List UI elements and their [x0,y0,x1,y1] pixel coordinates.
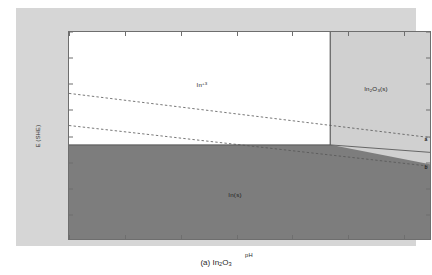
figure-caption: (a) In2O3 [200,258,231,267]
water-line-a [69,93,431,137]
region-label-in2o3: In2O3(s) [364,85,388,93]
phase-lines-svg [69,32,431,240]
pourbaix-figure: E (SHE) pH In+3 In2O3(s) In( [0,0,432,275]
y-axis-title: E (SHE) [35,125,41,148]
water-line-b-label: b [424,164,427,170]
boundary-oxide-metal [330,145,431,153]
figure-canvas: E (SHE) pH In+3 In2O3(s) In( [16,8,416,246]
plot-area: In+3 In2O3(s) In(s) a b 4.0 3.0 2.0 1.0 … [68,31,431,240]
region-label-in-ion: In+3 [197,81,208,88]
region-label-in-metal: In(s) [228,191,241,198]
water-line-b [69,126,431,167]
x-axis-title: pH [245,252,253,258]
